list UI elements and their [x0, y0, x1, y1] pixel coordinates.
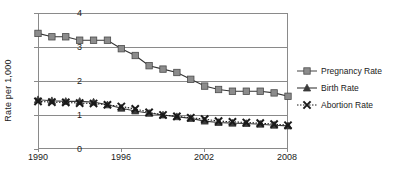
legend-label: Pregnancy Rate — [321, 66, 382, 76]
x-tick-label: 2002 — [184, 152, 224, 162]
y-axis-title: Rate per 1,000 — [0, 0, 16, 181]
legend-triangle-marker-icon — [296, 82, 318, 94]
x-tick-label: 1996 — [101, 152, 141, 162]
legend-x-marker-icon — [296, 99, 318, 111]
legend-label: Birth Rate — [321, 83, 359, 93]
legend-square-marker-icon — [296, 65, 318, 77]
legend-item-pregnancy-rate: Pregnancy Rate — [296, 64, 395, 78]
chart-legend: Pregnancy Rate Birth Rate Abortion Rate — [296, 64, 395, 115]
x-tick-label: 1990 — [18, 152, 58, 162]
x-tick-label: 2008 — [267, 152, 307, 162]
legend-item-abortion-rate: Abortion Rate — [296, 98, 395, 112]
legend-item-birth-rate: Birth Rate — [296, 81, 395, 95]
legend-label: Abortion Rate — [321, 100, 373, 110]
series-layer — [38, 13, 288, 149]
chart-screenshot: Rate per 1,000 4 3 2 1 0 1990 1996 2002 … — [0, 0, 395, 181]
